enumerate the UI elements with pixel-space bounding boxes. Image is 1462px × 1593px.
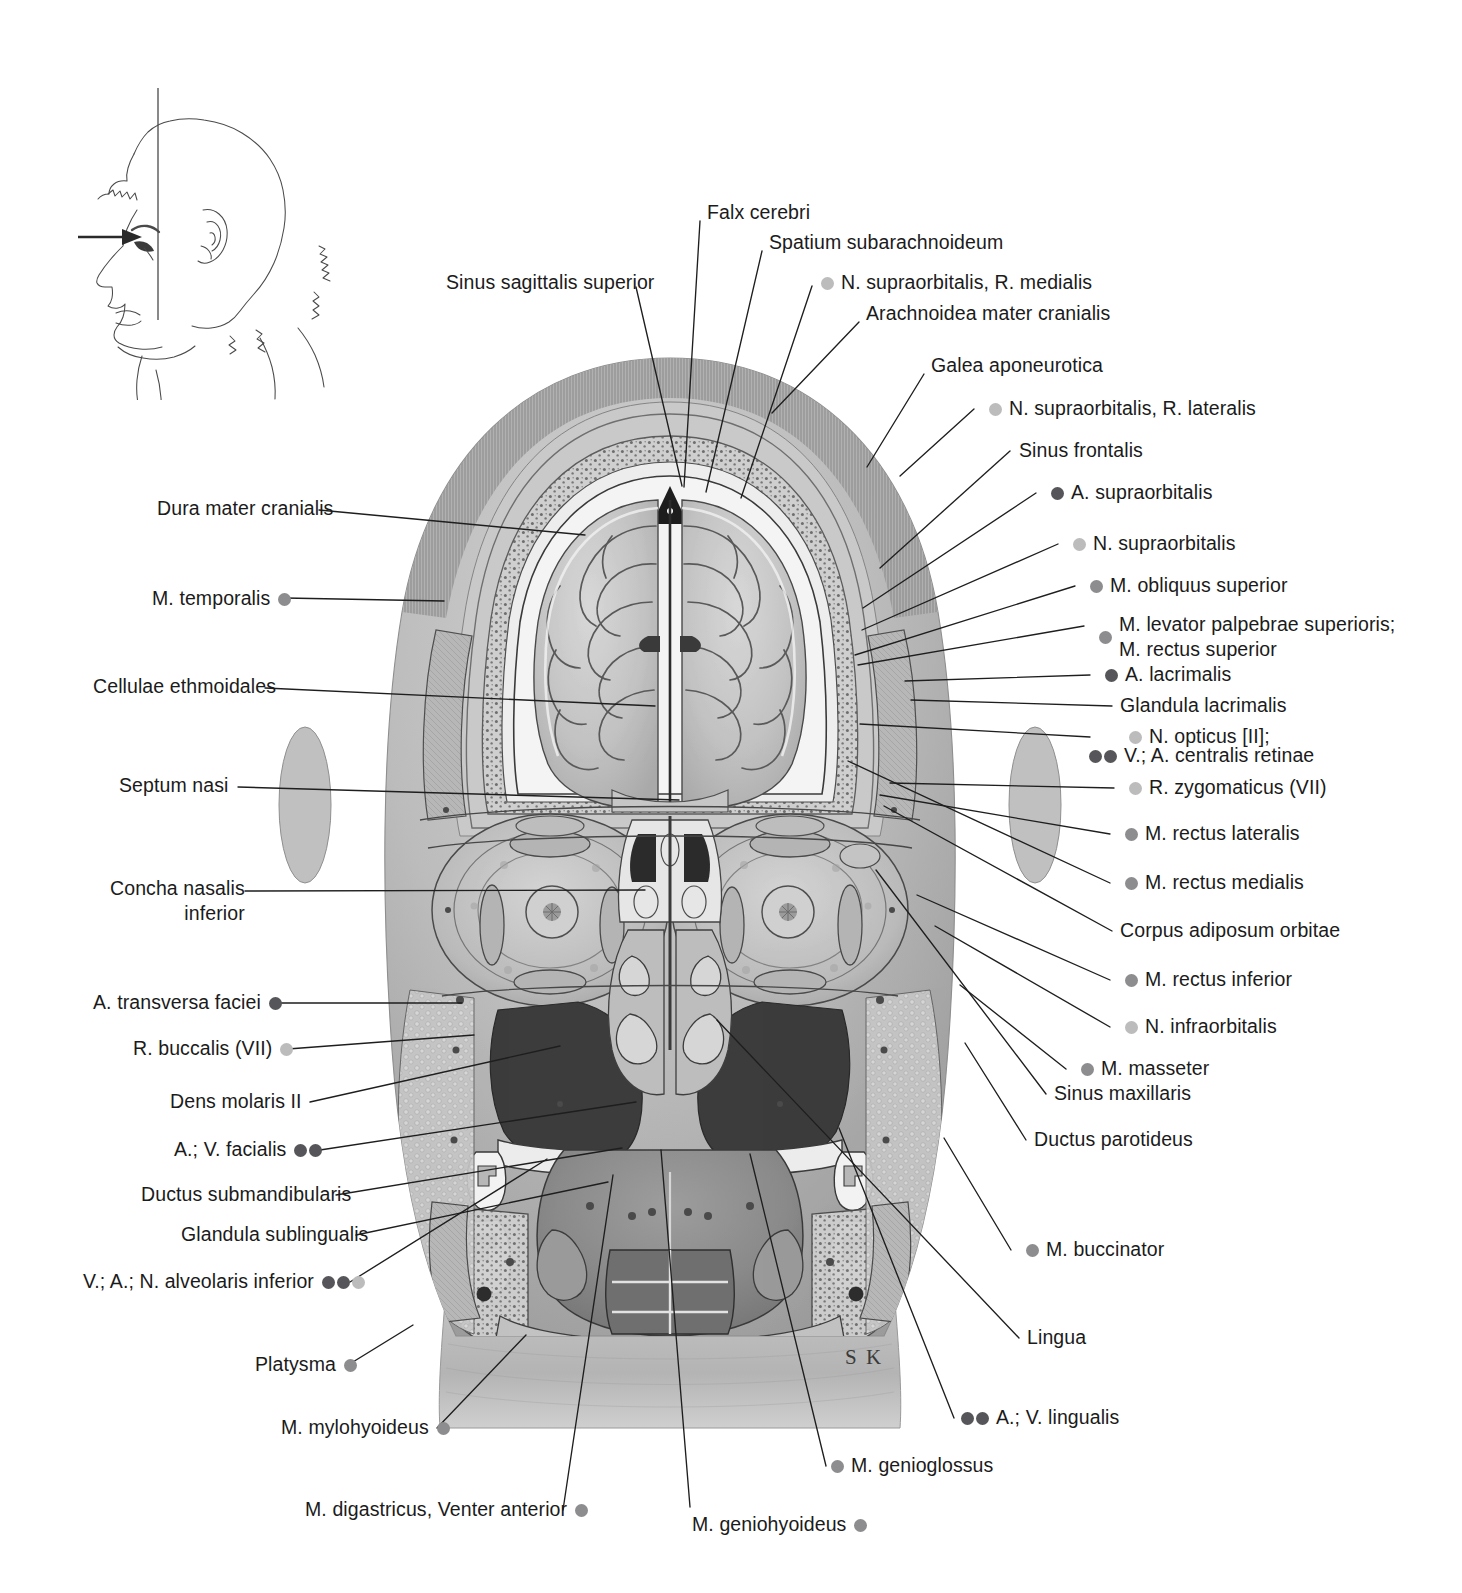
label-text: Glandula sublingualis [181,1222,368,1247]
bullet-group [1104,662,1119,687]
bullet-muscle [437,1422,450,1435]
bullet-muscle [344,1359,357,1372]
label-text: Falx cerebri [707,200,810,225]
label-text: Spatium subarachnoideum [769,230,1003,255]
label-text: A. lacrimalis [1125,662,1231,687]
artist-signature: S K [845,1345,883,1370]
bullet-group [1025,1237,1040,1262]
label-m-mylohyoideus: M. mylohyoideus [281,1414,451,1440]
label-m-digastricus-venter-anterior: M. digastricus, Venter anterior [305,1496,589,1522]
label-concha-nasalis: Concha nasalisinferior [110,876,245,926]
bullet-group [1124,967,1139,992]
label-text: M. rectus inferior [1145,967,1292,992]
bullet-group [1124,821,1139,846]
label-m-rectus-inferior: M. rectus inferior [1124,966,1292,992]
bullet-artery [322,1276,335,1289]
label-text: M. obliquus superior [1110,573,1288,598]
bullet-group [574,1497,589,1522]
bullet-nerve [821,277,834,290]
label-text: M. rectus medialis [1145,870,1304,895]
bullet-group [853,1512,868,1537]
label-text-line2: M. rectus superior [1119,637,1395,662]
label-text-line2: inferior [110,901,245,926]
label-text: Lingua [1027,1325,1086,1350]
label-dura-mater-cranialis: Dura mater cranialis [157,495,333,521]
label-text: A.; V. facialis [174,1137,286,1162]
label-m-levator-palpebrae-superioris: M. levator palpebrae superioris;M. rectu… [1098,612,1395,662]
label-text: Ductus submandibularis [141,1182,351,1207]
bullet-group [279,1036,294,1061]
bullet-artery [269,997,282,1010]
label-text: M. digastricus, Venter anterior [305,1497,567,1522]
label-text: N. supraorbitalis, R. medialis [841,270,1092,295]
label-text: Dens molaris II [170,1089,302,1114]
label-a-transversa-faciei: A. transversa faciei [93,989,283,1015]
label-m-rectus-lateralis: M. rectus lateralis [1124,820,1300,846]
label-m-genioglossus: M. genioglossus [830,1452,993,1478]
bullet-muscle [278,593,291,606]
bullet-group [268,990,283,1015]
bullet-muscle [1026,1244,1039,1257]
label-text: M. rectus lateralis [1145,821,1300,846]
bullet-group [293,1137,323,1162]
label-a-v-facialis: A.; V. facialis [174,1136,323,1162]
label-cellulae-ethmoidales: Cellulae ethmoidales [93,673,276,699]
bullet-nerve [280,1043,293,1056]
bullet-artery [1104,750,1117,763]
label-m-temporalis: M. temporalis [152,585,292,611]
label-text: M. mylohyoideus [281,1415,429,1440]
label-m-buccinator: M. buccinator [1025,1236,1164,1262]
label-m-masseter: M. masseter [1080,1055,1209,1081]
label-text: M. geniohyoideus [692,1512,846,1537]
bullet-group [1050,480,1065,505]
bullet-group [436,1415,451,1440]
label-a-v-lingualis: A.; V. lingualis [960,1404,1119,1430]
label-text: Concha nasalisinferior [110,876,245,926]
bullet-artery [961,1412,974,1425]
label-v-a-centralis-retinae: V.; A. centralis retinae [1088,742,1314,768]
label-ductus-parotideus: Ductus parotideus [1034,1126,1193,1152]
bullet-muscle [831,1460,844,1473]
bullet-group [1080,1056,1095,1081]
label-text: A.; V. lingualis [996,1405,1119,1430]
label-n-supraorbitalis-r-medialis: N. supraorbitalis, R. medialis [820,269,1092,295]
label-r-buccalis-vii: R. buccalis (VII) [133,1035,294,1061]
label-lingua: Lingua [1027,1324,1086,1350]
label-text: Galea aponeurotica [931,353,1103,378]
bullet-group [1088,743,1118,768]
label-sinus-sagittalis-superior: Sinus sagittalis superior [446,269,654,295]
label-text: Platysma [255,1352,336,1377]
label-text: R. zygomaticus (VII) [1149,775,1327,800]
bullet-nerve [1125,1021,1138,1034]
bullet-muscle [1125,828,1138,841]
label-galea-aponeurotica: Galea aponeurotica [931,352,1103,378]
bullet-artery [1105,669,1118,682]
label-text: N. supraorbitalis [1093,531,1236,556]
bullet-group [830,1453,845,1478]
bullet-group [277,586,292,611]
label-r-zygomaticus-vii: R. zygomaticus (VII) [1128,774,1327,800]
label-text: Cellulae ethmoidales [93,674,276,699]
label-n-supraorbitalis-r-lateralis: N. supraorbitalis, R. lateralis [988,395,1256,421]
label-text: V.; A.; N. alveolaris inferior [83,1269,314,1294]
label-dens-molaris-ii: Dens molaris II [170,1088,302,1114]
label-text: Dura mater cranialis [157,496,333,521]
bullet-artery [1051,487,1064,500]
anatomy-plate: S K Falx cerebriSpatium subarachnoideumN… [0,0,1462,1593]
label-m-geniohyoideus: M. geniohyoideus [692,1511,868,1537]
bullet-muscle [1125,877,1138,890]
label-v-a-n-alveolaris-inferior: V.; A.; N. alveolaris inferior [83,1268,366,1294]
bullet-group [1072,531,1087,556]
bullet-artery [309,1144,322,1157]
label-a-supraorbitalis: A. supraorbitalis [1050,479,1213,505]
bullet-group [1124,1014,1139,1039]
bullet-group [820,270,835,295]
bullet-artery [337,1276,350,1289]
label-m-obliquus-superior: M. obliquus superior [1089,572,1288,598]
label-text: A. transversa faciei [93,990,261,1015]
label-text: M. levator palpebrae superioris;M. rectu… [1119,612,1395,662]
label-platysma: Platysma [255,1351,358,1377]
label-text: M. masseter [1101,1056,1209,1081]
bullet-muscle [1125,974,1138,987]
bullet-group [1128,775,1143,800]
